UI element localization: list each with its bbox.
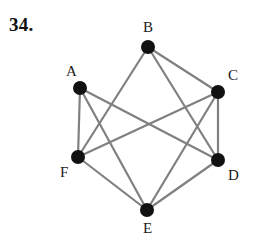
graph-vertex-d — [211, 153, 225, 167]
graph-vertex-e — [140, 203, 154, 217]
graph-vertex-label-e: E — [143, 220, 152, 236]
graph-edge-b-c — [148, 47, 218, 92]
graph-vertex-f — [71, 150, 85, 164]
graph-vertex-a — [73, 81, 87, 95]
graph-edge-d-e — [147, 160, 218, 210]
figure-page: 34. ABCDEF — [0, 0, 263, 241]
graph-vertex-label-a: A — [66, 63, 77, 79]
graph-vertex-label-f: F — [60, 164, 68, 180]
edge-layer — [78, 47, 218, 210]
graph-edge-c-e — [147, 92, 218, 210]
graph-edge-a-f — [78, 88, 80, 157]
graph-edge-b-d — [148, 47, 218, 160]
graph-vertex-b — [141, 40, 155, 54]
graph-vertex-label-b: B — [143, 19, 153, 35]
vertex-layer — [71, 40, 225, 217]
graph-vertex-label-d: D — [228, 167, 239, 183]
graph-vertex-label-c: C — [228, 67, 238, 83]
graph-figure: ABCDEF — [0, 0, 263, 241]
graph-edge-e-f — [78, 157, 147, 210]
graph-vertex-c — [211, 85, 225, 99]
